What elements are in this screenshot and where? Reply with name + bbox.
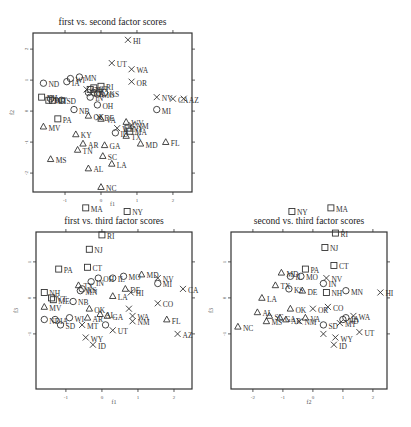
data-point-ca: CA xyxy=(170,96,189,105)
point-label: SD xyxy=(65,322,75,331)
panel-f1-vs-f3: first vs. third factor scores-1012-101f1… xyxy=(13,205,199,405)
square-marker xyxy=(124,208,130,214)
data-point-al: AL xyxy=(85,165,104,174)
point-label: MI xyxy=(162,107,172,116)
point-label: KY xyxy=(81,131,92,140)
panel-f2-vs-f3: second vs. third factor scores-2-1012-10… xyxy=(208,205,394,405)
point-label: ID xyxy=(98,342,106,351)
point-label: MD xyxy=(146,141,159,150)
point-label: IA xyxy=(351,315,359,324)
triangle-marker xyxy=(254,309,260,315)
triangle-marker xyxy=(235,323,241,329)
data-point-ok: OK xyxy=(287,305,307,314)
data-point-sc: SC xyxy=(100,153,117,162)
point-label: OR xyxy=(137,79,147,88)
triangle-marker xyxy=(122,285,128,291)
data-point-tx: TX xyxy=(272,282,291,291)
triangle-marker xyxy=(263,318,269,324)
y-tick-label: 1 xyxy=(222,260,227,263)
data-point-ms: MS xyxy=(263,318,282,327)
data-point-ma: MA xyxy=(83,205,104,214)
point-label: ND xyxy=(48,80,59,89)
cross-marker xyxy=(332,335,338,341)
cross-marker xyxy=(130,318,136,324)
point-label: CT xyxy=(93,264,103,273)
point-label: ND xyxy=(49,317,60,326)
cross-marker xyxy=(110,327,116,333)
x-tick-label: 0 xyxy=(100,198,103,203)
square-marker xyxy=(85,264,91,270)
triangle-marker xyxy=(85,165,91,171)
data-point-sd: SD xyxy=(320,322,338,331)
point-label: CA xyxy=(178,96,189,105)
data-point-mn: MN xyxy=(77,287,98,296)
circle-marker xyxy=(40,80,46,86)
cross-marker xyxy=(331,342,337,348)
data-point-nb: NB xyxy=(70,298,89,307)
data-point-mi: MI xyxy=(154,106,172,115)
data-point-mv: MV xyxy=(41,303,62,312)
data-point-nh: NH xyxy=(323,289,342,298)
square-marker xyxy=(332,230,338,236)
point-label: MN xyxy=(351,288,364,297)
data-point-co: CO xyxy=(84,86,103,95)
triangle-marker xyxy=(74,146,80,152)
point-label: RI xyxy=(107,232,115,241)
point-label: LA xyxy=(117,161,128,170)
triangle-marker xyxy=(40,123,46,129)
x-tick-label: 0 xyxy=(312,395,315,400)
triangle-marker xyxy=(164,316,170,322)
data-point-or: OR xyxy=(129,79,147,88)
chart-title: second vs. third factor scores xyxy=(254,216,365,226)
factor-scores-figure: first vs. second factor scores-1012-2-10… xyxy=(0,0,411,427)
data-point-ks2 xyxy=(102,322,108,328)
point-label: OH xyxy=(103,275,114,284)
point-label: MS xyxy=(56,156,67,165)
point-label: ID xyxy=(339,342,347,351)
cross-marker xyxy=(356,329,362,335)
data-point-fl: FL xyxy=(164,316,181,325)
y-axis-label: f2 xyxy=(9,110,15,115)
point-label: MS xyxy=(271,318,282,327)
cross-marker xyxy=(155,300,161,306)
circle-marker xyxy=(41,316,47,322)
y-tick-label: 2 xyxy=(24,47,29,50)
square-marker xyxy=(323,289,329,295)
data-point-mi: MI xyxy=(155,280,173,289)
point-label: NC xyxy=(106,184,116,193)
point-label: NJ xyxy=(94,246,102,255)
data-point-nc: NC xyxy=(235,323,254,332)
data-point-tx2 xyxy=(126,306,132,312)
triangle-marker xyxy=(41,303,47,309)
point-label: LA xyxy=(118,293,129,302)
data-point-nj: NJ xyxy=(322,244,338,253)
x-tick-label: -1 xyxy=(64,395,69,400)
point-label: IN xyxy=(328,280,336,289)
data-point-ok: OK xyxy=(86,305,106,314)
data-point-co: CO xyxy=(155,300,174,309)
point-label: MN xyxy=(85,288,98,297)
point-label: PA xyxy=(63,116,72,125)
data-point-la: LA xyxy=(109,160,128,169)
point-label: MV xyxy=(48,124,61,133)
triangle-marker xyxy=(84,314,90,320)
point-label: WA xyxy=(358,313,370,322)
x-axis-label: f1 xyxy=(112,399,117,405)
point-label: NM xyxy=(304,318,316,327)
triangle-marker xyxy=(272,282,278,288)
point-label: IN xyxy=(96,279,104,288)
cross-marker xyxy=(126,306,132,312)
circle-marker xyxy=(71,106,77,112)
cross-marker xyxy=(154,94,160,100)
point-label: AR xyxy=(291,317,301,326)
cross-marker xyxy=(130,313,136,319)
point-label: NM xyxy=(138,318,150,327)
y-tick-label: 1 xyxy=(24,78,29,81)
data-point-pa: PA xyxy=(56,266,73,275)
x-tick-label: -1 xyxy=(281,395,286,400)
cross-marker xyxy=(109,60,115,66)
y-tick-label: 1 xyxy=(27,260,32,263)
chart-title: first vs. third factor scores xyxy=(64,216,164,226)
data-point-fl: FL xyxy=(163,139,180,148)
square-marker xyxy=(41,289,47,295)
